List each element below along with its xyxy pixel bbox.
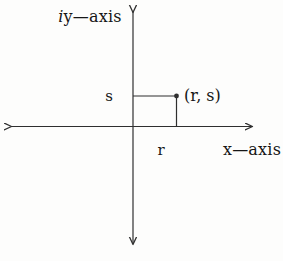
axes-drawing	[0, 0, 283, 261]
y-axis-label: iy—axis	[58, 7, 121, 26]
r-label: r	[157, 141, 164, 159]
y-axis-label-rest: y—axis	[64, 7, 122, 26]
complex-plane-diagram: iy—axis x—axis s r (r, s)	[0, 0, 283, 261]
x-axis-label: x—axis	[223, 140, 281, 159]
s-label: s	[105, 87, 113, 105]
point-dot	[174, 94, 179, 99]
point-label: (r, s)	[184, 86, 221, 105]
